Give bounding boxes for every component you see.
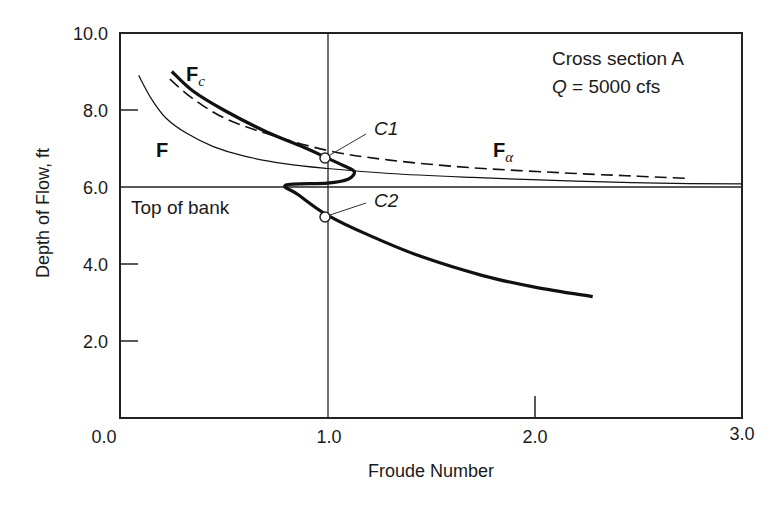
c2-label: C2: [374, 190, 399, 211]
y-tick-labels: 10.0 8.0 6.0 4.0 2.0: [73, 24, 108, 352]
falpha-curve-label: Fα: [493, 139, 514, 165]
c2-marker: [320, 212, 330, 222]
c1-marker: [320, 153, 330, 163]
c1-leader: [330, 134, 366, 155]
falpha-sub: α: [505, 149, 514, 165]
y-tick-10: 10.0: [73, 24, 108, 44]
y-tick-2: 2.0: [83, 332, 108, 352]
x-tick-labels: 0.0 1.0 2.0 3.0: [91, 424, 754, 447]
fc-curve-label: Fc: [186, 63, 205, 89]
falpha-main: F: [493, 139, 505, 161]
froude-depth-chart: 10.0 8.0 6.0 4.0 2.0 0.0 1.0 2.0 3.0 Fro…: [0, 0, 779, 510]
x-tick-1: 1.0: [316, 427, 341, 447]
c2-leader: [330, 203, 366, 215]
x-tick-2-label: 2.0: [522, 427, 547, 447]
discharge-value: = 5000 cfs: [567, 76, 660, 97]
fc-sub: c: [198, 73, 205, 89]
top-of-bank-label: Top of bank: [131, 197, 230, 218]
y-tick-8: 8.0: [83, 101, 108, 121]
curve-fc: [172, 72, 593, 297]
c1-label: C1: [374, 118, 398, 139]
discharge-var: Q: [552, 76, 567, 97]
x-tick-0: 0.0: [91, 427, 116, 447]
fc-main: F: [186, 63, 198, 85]
y-axis-label: Depth of Flow, ft: [33, 148, 53, 278]
curves: [139, 72, 742, 297]
cross-section-label: Cross section A: [552, 48, 684, 69]
discharge-label: Q = 5000 cfs: [552, 76, 660, 97]
x-tick-3: 3.0: [729, 424, 754, 444]
y-tick-4: 4.0: [83, 255, 108, 275]
x-axis-label: Froude Number: [368, 461, 494, 481]
f-curve-label: F: [156, 139, 168, 161]
y-tick-6: 6.0: [83, 178, 108, 198]
y-axis-ticks: [120, 110, 138, 341]
